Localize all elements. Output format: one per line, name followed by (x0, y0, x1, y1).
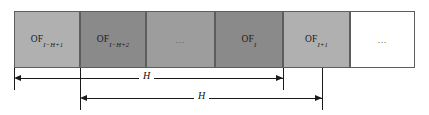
frame-cell-2-label: OFI−H+2 (97, 35, 130, 45)
frame-cell-3-ellipsis: … (146, 11, 215, 68)
frame-cell-5-label: OFI+1 (305, 35, 328, 45)
frame-cell-6-ellipsis: … (350, 11, 415, 68)
span-2-tick-right (322, 68, 323, 110)
span-2-arrowhead-left-icon (80, 95, 87, 101)
span-1-tick-right (283, 68, 284, 90)
ellipsis-middle: … (175, 35, 185, 45)
span-2-tick-left (80, 68, 81, 110)
span-1-arrowhead-left-icon (14, 75, 21, 81)
frame-cell-1-subscript: I−H+1 (43, 41, 63, 48)
frame-cell-5-base: OF (305, 34, 318, 44)
frame-cell-2-subscript: I−H+2 (109, 41, 129, 48)
frame-cell-4-base: OF (242, 34, 255, 44)
frame-cell-2: OFI−H+2 (80, 11, 146, 68)
frame-cell-1-base: OF (31, 34, 44, 44)
frame-cell-4-label: OFI (242, 35, 257, 45)
figure-canvas: OFI−H+1 OFI−H+2 … OFI OFI+1 … H (0, 0, 429, 115)
span-1-arrowhead-right-icon (276, 75, 283, 81)
frame-cell-2-base: OF (97, 34, 110, 44)
frame-cell-1: OFI−H+1 (14, 11, 80, 68)
span-2-arrowhead-right-icon (315, 95, 322, 101)
ellipsis-right: … (377, 35, 387, 45)
span-2-label: H (194, 91, 209, 101)
frame-cell-5-subscript: I+1 (318, 41, 329, 48)
frame-sequence-strip: OFI−H+1 OFI−H+2 … OFI OFI+1 … (14, 11, 415, 68)
span-1-label: H (139, 71, 154, 81)
frame-cell-5: OFI+1 (283, 11, 350, 68)
frame-cell-4-subscript: I (254, 41, 256, 48)
frame-cell-1-label: OFI−H+1 (31, 35, 64, 45)
frame-cell-4: OFI (215, 11, 283, 68)
